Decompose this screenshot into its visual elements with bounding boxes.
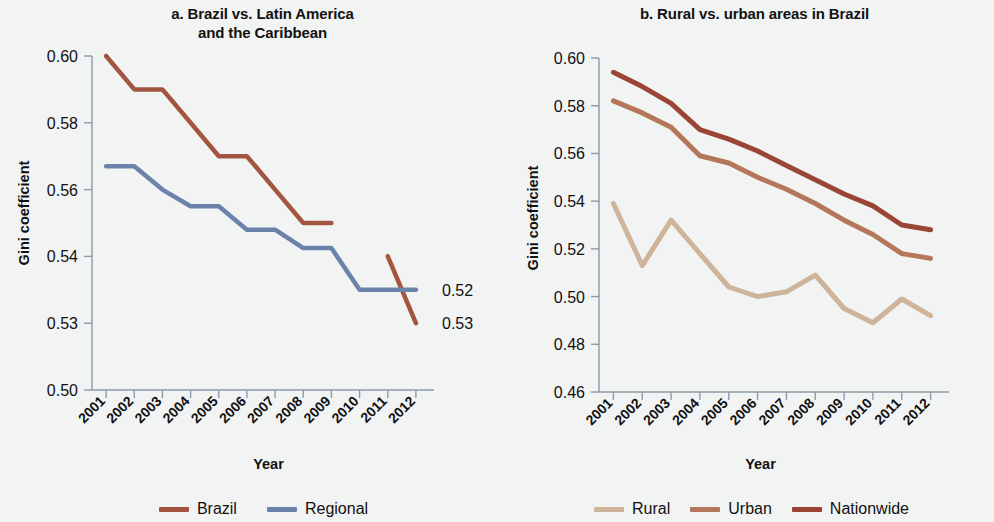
legend-item-nationwide[interactable]: Nationwide: [792, 500, 909, 518]
x-axis-tick-label: 2008: [272, 393, 305, 426]
series-line-regional: [106, 166, 416, 290]
legend-item-regional[interactable]: Regional: [267, 500, 368, 518]
x-axis-tick-label: 2007: [755, 395, 788, 428]
panel-b-y-axis-label: Gini coefficient: [525, 156, 541, 280]
x-axis-tick-label: 2010: [842, 395, 875, 428]
legend-item-rural[interactable]: Rural: [594, 500, 670, 518]
legend-swatch-icon: [594, 507, 624, 512]
y-axis-tick-label: 0.54: [47, 248, 78, 265]
legend-label: Nationwide: [830, 500, 909, 518]
x-axis-tick-label: 2007: [244, 393, 277, 426]
y-axis-tick-label: 0.54: [554, 193, 585, 210]
x-axis-tick-label: 2002: [611, 395, 644, 428]
y-axis-tick-label: 0.56: [554, 145, 585, 162]
x-axis-tick-label: 2005: [188, 393, 221, 426]
x-axis-tick-label: 2004: [159, 393, 192, 426]
x-axis-tick-label: 2001: [582, 395, 615, 428]
x-axis-tick-label: 2011: [871, 395, 904, 428]
x-axis-tick-label: 2003: [131, 393, 164, 426]
legend-swatch-icon: [792, 507, 822, 512]
legend-item-brazil[interactable]: Brazil: [159, 500, 237, 518]
x-axis-tick-label: 2005: [698, 395, 731, 428]
y-axis-tick-label: 0.48: [554, 336, 585, 353]
x-axis-tick-label: 2010: [328, 393, 361, 426]
panel-a-plot: 0.600.580.560.540.530.502001200220032004…: [0, 0, 497, 522]
x-axis-tick-label: 2011: [357, 393, 390, 426]
x-axis-tick-label: 2001: [75, 393, 108, 426]
series-end-label-brazil: 0.53: [442, 315, 473, 332]
legend-swatch-icon: [159, 507, 189, 512]
y-axis-tick-label: 0.50: [554, 289, 585, 306]
y-axis-tick-label: 0.58: [554, 98, 585, 115]
legend-label: Rural: [632, 500, 670, 518]
y-axis-tick-label: 0.58: [47, 115, 78, 132]
panel-a-legend: BrazilRegional: [0, 500, 497, 518]
x-axis-tick-label: 2009: [300, 393, 333, 426]
figure-container: a. Brazil vs. Latin America and the Cari…: [0, 0, 994, 522]
x-axis-tick-label: 2006: [216, 393, 249, 426]
x-axis-tick-label: 2004: [669, 395, 702, 428]
panel-b-x-axis-label: Year: [497, 456, 994, 472]
legend-label: Regional: [305, 500, 368, 518]
x-axis-tick-label: 2002: [103, 393, 136, 426]
x-axis-tick-label: 2009: [813, 395, 846, 428]
panel-b-plot: 0.600.580.560.540.520.500.480.4620012002…: [497, 0, 994, 522]
legend-label: Urban: [728, 500, 772, 518]
legend-swatch-icon: [267, 507, 297, 512]
x-axis-tick-label: 2008: [784, 395, 817, 428]
panel-a-x-axis-label: Year: [0, 456, 497, 472]
y-axis-tick-label: 0.50: [47, 382, 78, 399]
x-axis-tick-label: 2012: [385, 393, 418, 426]
series-line-brazil: [106, 56, 331, 223]
y-axis-tick-label: 0.60: [47, 48, 78, 65]
legend-item-urban[interactable]: Urban: [690, 500, 772, 518]
legend-label: Brazil: [197, 500, 237, 518]
x-axis-tick-label: 2006: [726, 395, 759, 428]
series-line-nationwide: [613, 72, 930, 230]
series-end-label-regional: 0.52: [442, 282, 473, 299]
y-axis-tick-label: 0.56: [47, 182, 78, 199]
y-axis-tick-label: 0.46: [554, 384, 585, 401]
y-axis-tick-label: 0.52: [554, 241, 585, 258]
x-axis-tick-label: 2003: [640, 395, 673, 428]
panel-a-y-axis-label: Gini coefficient: [16, 151, 32, 275]
y-axis-tick-label: 0.53: [47, 315, 78, 332]
y-axis-tick-label: 0.60: [554, 50, 585, 67]
series-line-rural: [613, 204, 930, 323]
x-axis-tick-label: 2012: [899, 395, 932, 428]
chart-panel-b: b. Rural vs. urban areas in Brazil 0.600…: [497, 0, 994, 522]
legend-swatch-icon: [690, 507, 720, 512]
panel-b-legend: RuralUrbanNationwide: [497, 500, 994, 518]
chart-panel-a: a. Brazil vs. Latin America and the Cari…: [0, 0, 497, 522]
